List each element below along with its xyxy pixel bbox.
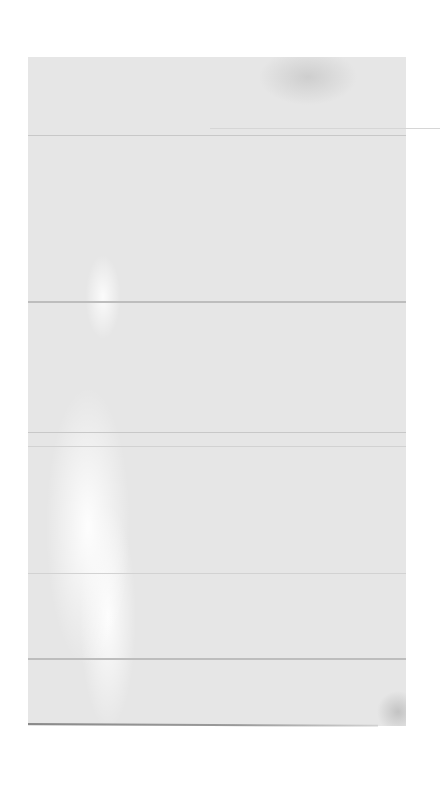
horizontal-rule (28, 446, 406, 447)
bleed-through-text (10, 0, 430, 10)
horizontal-rule (28, 432, 406, 433)
scanned-page (0, 0, 440, 791)
sheet-bottom-edge (28, 723, 378, 727)
horizontal-rule (28, 573, 406, 574)
horizontal-rule (28, 135, 406, 136)
scanned-sheet-area (28, 57, 406, 726)
horizontal-rule (210, 128, 440, 129)
horizontal-rule (28, 658, 406, 660)
horizontal-rule (28, 301, 406, 303)
